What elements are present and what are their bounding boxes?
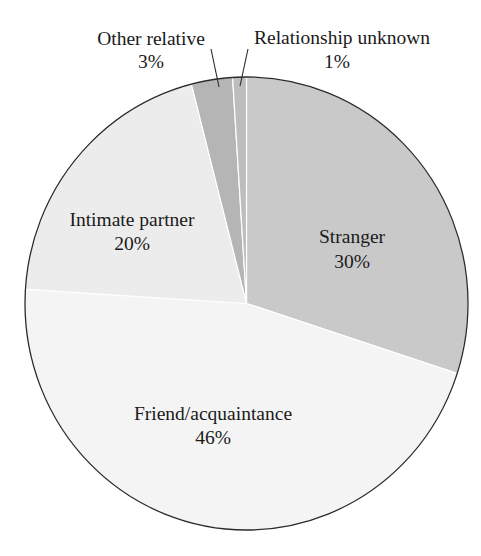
pie-slices — [25, 77, 468, 530]
label-relationship-unknown: Relationship unknown — [254, 27, 430, 48]
label-intimate-partner: Intimate partner — [69, 209, 195, 230]
label-friend-acquaintance: Friend/acquaintance — [134, 403, 292, 424]
percent-friend-acquaintance: 46% — [195, 427, 231, 448]
percent-relationship-unknown: 1% — [324, 51, 350, 72]
label-stranger: Stranger — [319, 226, 386, 247]
percent-stranger: 30% — [334, 251, 370, 272]
pie-chart: Stranger30%Friend/acquaintance46%Intimat… — [0, 0, 481, 556]
percent-intimate-partner: 20% — [114, 233, 150, 254]
label-other-relative: Other relative — [97, 28, 205, 49]
percent-other-relative: 3% — [138, 51, 164, 72]
